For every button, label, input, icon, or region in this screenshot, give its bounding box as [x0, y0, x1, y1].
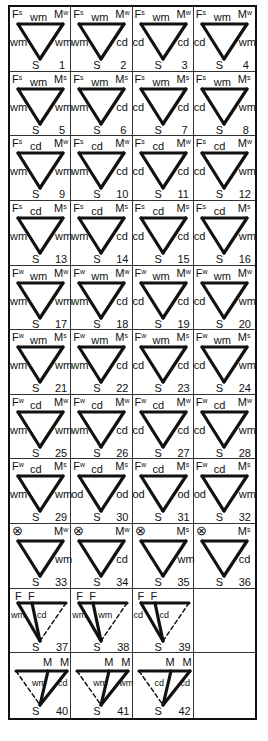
triad-cell-30: FwcdodMsodS30: [71, 459, 132, 524]
edge-right-label: cd: [116, 166, 128, 177]
cell-number: 36: [239, 577, 251, 588]
edge-right-label: wm: [239, 425, 256, 436]
vertex-m-label: Ms: [238, 461, 251, 472]
vertex-s-label: S: [93, 60, 100, 71]
vertex-m-label: M: [104, 657, 113, 668]
edge-left-label: wm: [71, 102, 88, 113]
vertex-m-label: Mw: [115, 526, 129, 537]
crossed-circle-icon: ⊗: [196, 525, 207, 536]
vertex-s-label: S: [93, 383, 100, 394]
cell-number: 23: [178, 383, 190, 394]
edge-top-label: cd: [153, 141, 165, 152]
vertex-s-label: S: [155, 642, 162, 653]
cell-number: 13: [55, 254, 67, 265]
triad-cell-19: FwwmcdMwcdS19: [133, 266, 194, 331]
edge-right-label: wm: [239, 360, 256, 371]
crossed-circle-icon: ⊗: [135, 525, 146, 536]
edge-right-label: wm: [239, 37, 256, 48]
vertex-m-label: Mw: [115, 138, 129, 149]
edge-right-label: cd: [58, 679, 68, 688]
vertex-m-label: Ms: [238, 203, 251, 214]
edge-right-label: od: [116, 489, 128, 500]
edge-left-label: wm: [10, 37, 27, 48]
vertex-f2-label: F: [151, 591, 158, 602]
vertex-s-label: S: [216, 125, 223, 136]
vertex-s-label: S: [93, 319, 100, 330]
triad-cell-28: FwcdcdMwwmS28: [194, 395, 255, 460]
vertex-m-label: Ms: [115, 203, 128, 214]
edge-left-label: cd: [194, 102, 206, 113]
cell-number: 9: [59, 189, 65, 200]
vertex-s-label: S: [32, 512, 39, 523]
vertex-m-label: Ms: [115, 332, 128, 343]
vertex-s-label: S: [32, 60, 39, 71]
cell-number: 5: [59, 125, 65, 136]
vertex-s-label: S: [155, 125, 162, 136]
edge-right-label: wm: [239, 102, 256, 113]
vertex-m-label: Ms: [238, 526, 251, 537]
edge-inner-label: wm: [32, 679, 46, 688]
cell-number: 37: [56, 642, 68, 653]
vertex-m-label: Mw: [115, 268, 129, 279]
vertex-m-label: Mw: [54, 268, 68, 279]
edge-top-label: cd: [91, 400, 103, 411]
vertex-m-label: Ms: [177, 74, 190, 85]
edge-left-label: wm: [10, 102, 27, 113]
edge-right-label: cd: [116, 425, 128, 436]
edge-top-label: cd: [30, 206, 42, 217]
vertex-m-label: Mw: [115, 9, 129, 20]
vertex-f2-label: F: [89, 591, 96, 602]
edge-top-label: wm: [153, 335, 170, 346]
triad-cell-33: ⊗MwwmS33: [10, 524, 71, 589]
cell-number: 35: [178, 577, 190, 588]
empty-cell: [194, 589, 255, 654]
edge-left-label: cd: [133, 231, 145, 242]
vertex-f-label: Fw: [12, 397, 24, 408]
vertex-s-label: S: [32, 189, 39, 200]
cell-number: 31: [178, 512, 190, 523]
vertex-s-label: S: [155, 254, 162, 265]
vertex-f-label: Fs: [73, 74, 83, 85]
edge-right-label: cd: [178, 296, 190, 307]
vertex-f-label: Fs: [12, 74, 22, 85]
edge-left-label: wm: [10, 296, 27, 307]
cell-number: 4: [243, 60, 249, 71]
edge-top-label: cd: [214, 400, 226, 411]
vertex-f-label: F: [76, 591, 83, 602]
vertex-f-label: Fw: [196, 268, 208, 279]
triad-cell-21: FwwmwmMswmS21: [10, 330, 71, 395]
vertex-f-label: Fw: [73, 268, 85, 279]
cell-number: 12: [239, 189, 251, 200]
cell-number: 42: [179, 706, 191, 717]
edge-left-label: cd: [133, 166, 145, 177]
vertex-s-label: S: [93, 706, 100, 717]
edge-left-label: cd: [194, 296, 206, 307]
vertex-m-label: Mw: [177, 397, 191, 408]
triad-cell-32: FwcdodMswmS32: [194, 459, 255, 524]
triad-cell-42: MMcdcdS42: [133, 653, 194, 718]
vertex-f-label: Fw: [73, 332, 85, 343]
vertex-m-label: Ms: [177, 332, 190, 343]
vertex-m-label: Mw: [115, 397, 129, 408]
edge-left-label: od: [71, 489, 83, 500]
edge-top-label: wm: [91, 271, 108, 282]
vertex-s-label: S: [32, 577, 39, 588]
triad-cell-40: MMwmcdS40: [10, 653, 71, 718]
edge-right-label: cd: [181, 679, 191, 688]
edge-top-label: cd: [30, 141, 42, 152]
edge-right-label: wm: [55, 166, 72, 177]
cell-number: 22: [116, 383, 128, 394]
vertex-m-label: Mw: [54, 138, 68, 149]
edge-left-label: cd: [194, 37, 206, 48]
triad-cell-6: FswmwmMscdS6: [71, 72, 132, 137]
vertex-s-label: S: [93, 254, 100, 265]
cell-number: 24: [239, 383, 251, 394]
edge-left-label: wm: [71, 37, 88, 48]
cell-number: 27: [178, 448, 190, 459]
edge-left-label: cd: [194, 166, 206, 177]
triad-cell-24: FwwmcdMswmS24: [194, 330, 255, 395]
edge-right-label: cd: [116, 231, 128, 242]
edge-right-label: cd: [116, 360, 128, 371]
vertex-f-label: Fw: [135, 461, 147, 472]
vertex-m-label: Mw: [177, 138, 191, 149]
